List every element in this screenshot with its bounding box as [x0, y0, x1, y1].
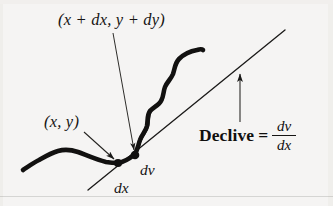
- slope-denominator: dx: [275, 137, 293, 153]
- point-x-dx-y-dy-dot: [131, 151, 140, 160]
- label-delta-v: dv: [140, 162, 155, 178]
- label-point-lower: (x, y): [44, 114, 79, 131]
- slope-fraction: dv dx: [272, 118, 296, 153]
- label-point-upper: (x + dx, y + dy): [58, 12, 165, 29]
- label-delta-x: dx: [114, 180, 129, 196]
- slope-numerator: dv: [275, 118, 293, 134]
- diagram-canvas: [0, 0, 333, 206]
- slope-diagram-figure: (x + dx, y + dy) (x, y) dv dx Declive = …: [0, 0, 333, 206]
- point-x-y-dot: [114, 159, 122, 167]
- slope-expression: Declive = dv dx: [199, 118, 296, 153]
- slope-equals-sign: =: [258, 125, 268, 147]
- scan-artifact-line: [0, 196, 333, 197]
- slope-word: Declive: [199, 125, 254, 146]
